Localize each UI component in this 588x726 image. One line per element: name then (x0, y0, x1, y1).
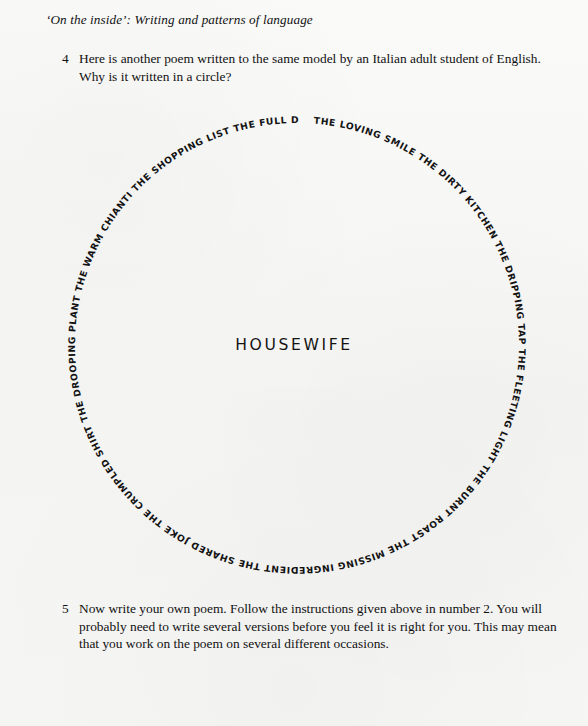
circular-poem-svg: THE LOVING SMILE THE DIRTY KITCHEN THE D… (0, 96, 588, 596)
document-page: ‘On the inside’: Writing and patterns of… (0, 0, 588, 726)
exercise-number: 4 (62, 50, 79, 68)
exercise-item-5: 5 Now write your own poem. Follow the in… (62, 600, 574, 653)
circular-poem-figure: THE LOVING SMILE THE DIRTY KITCHEN THE D… (0, 96, 588, 596)
running-head: ‘On the inside’: Writing and patterns of… (46, 12, 313, 28)
exercise-text: Now write your own poem. Follow the inst… (79, 600, 574, 653)
exercise-text: Here is another poem written to the same… (79, 50, 562, 85)
exercise-number: 5 (62, 600, 79, 618)
poem-center-word: HOUSEWIFE (235, 336, 352, 354)
exercise-item-4: 4 Here is another poem written to the sa… (62, 50, 562, 85)
